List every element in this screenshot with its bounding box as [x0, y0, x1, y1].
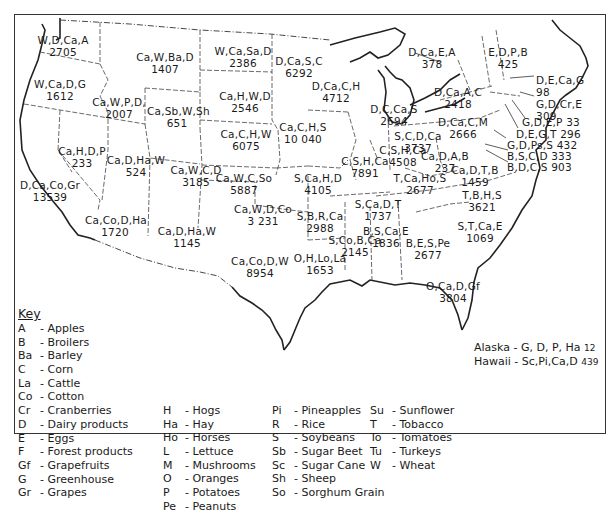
state-value: 1407 [135, 63, 195, 75]
key-label: - Apples [40, 322, 85, 335]
state-value: 1459 [445, 176, 505, 188]
key-label: - Pineapples [294, 404, 361, 417]
key-label: - Forest products [40, 445, 133, 458]
key-label: - Potatoes [185, 486, 240, 499]
state-value: 2694 [364, 115, 424, 127]
key-label: - Tomatoes [392, 431, 452, 444]
state-crops: W,D,Ca,A [33, 34, 93, 46]
state-crops: B,E,S,Pe [398, 237, 458, 249]
key-entry: M- Mushrooms [163, 459, 256, 473]
key-code: L [163, 445, 185, 459]
state-label-az: Ca,Co,D,Ha1720 [85, 214, 145, 238]
key-label: - Soybeans [294, 431, 355, 444]
key-label: - Mushrooms [185, 459, 256, 472]
key-label: - Wheat [392, 459, 435, 472]
state-label-sd: Ca,H,W,D2546 [215, 90, 275, 114]
state-label-me: E,D,P,B425 [478, 46, 538, 70]
key-label: - Hogs [185, 404, 220, 417]
key-code: D [18, 418, 40, 432]
key-column-3: Pi- PineapplesR- RiceS- SoybeansSb- Suga… [272, 404, 384, 500]
key-code: Ha [163, 418, 185, 432]
state-crops: D,Ca,C,M [433, 116, 493, 128]
state-label-pa: D,Ca,C,M2666 [433, 116, 493, 140]
state-crops: S,T,Ca,E [450, 220, 510, 232]
key-code: M [163, 459, 185, 473]
state-label-ia: Ca,C,H,S10 040 [273, 121, 333, 145]
state-crops: W,Ca,Sa,D [213, 45, 273, 57]
key-entry: Gr- Grapes [18, 486, 133, 500]
state-value: 1653 [290, 264, 350, 276]
state-value: 5887 [214, 184, 274, 196]
key-code: So [272, 486, 294, 500]
state-crops: Ca,D,T,B [445, 164, 505, 176]
state-value: 233 [52, 157, 112, 169]
state-label-va: Ca,D,T,B1459 [445, 164, 505, 188]
state-crops: S,Ca,D,T [348, 198, 408, 210]
key-code: E [18, 432, 40, 446]
key-entry: P- Potatoes [163, 486, 256, 500]
key-label: - Grapes [40, 486, 87, 499]
key-column-4: Su- SunflowerT- TobaccoTo- TomatoesTu- T… [370, 404, 454, 472]
key-entry: T- Tobacco [370, 418, 454, 432]
key-code: T [370, 418, 392, 432]
key-entry: Ha- Hay [163, 418, 256, 432]
key-code: R [272, 418, 294, 432]
state-label-wi: D,Ca,C,H4712 [306, 80, 366, 104]
key-code: Tu [370, 445, 392, 459]
state-label-wy: Ca,Sb,W,Sh651 [147, 105, 207, 129]
key-code: Gf [18, 459, 40, 473]
hawaii-label: Hawaii - Sc,Pi,Ca,D [474, 355, 578, 368]
state-label-nm: Ca,D,Ha,W1145 [157, 225, 217, 249]
state-crops: Ca,C,H,S [273, 121, 333, 133]
key-entry: So- Sorghum Grain [272, 486, 384, 500]
key-code: To [370, 431, 392, 445]
state-value: 4712 [306, 92, 366, 104]
state-label-ar: S,B,R,Ca2988 [290, 210, 350, 234]
key-entry: E- Eggs [18, 432, 133, 446]
key-code: F [18, 445, 40, 459]
state-label-mi: D,C,Ca,S2694 [364, 103, 424, 127]
state-value: 1612 [30, 90, 90, 102]
state-crops: E,D,P,B [478, 46, 538, 58]
alaska-value: 12 [584, 343, 595, 353]
key-code: A [18, 322, 40, 336]
key-entry: Gf- Grapefruits [18, 459, 133, 473]
state-label-mn: D,Ca,S,C6292 [269, 55, 329, 79]
state-value: 2677 [390, 184, 450, 196]
key-code: W [370, 459, 392, 473]
state-value: 6292 [269, 67, 329, 79]
alaska-label: Alaska - G, D, P, Ha [474, 341, 581, 354]
key-label: - Peanuts [185, 500, 236, 513]
state-crops: Ca,D,Ha,W [157, 225, 217, 237]
state-crops: Ca,Sb,W,Sh [147, 105, 207, 117]
state-label-or: W,Ca,D,G1612 [30, 78, 90, 102]
state-value: 6075 [216, 140, 276, 152]
key-entry: O- Oranges [163, 472, 256, 486]
key-code: O [163, 472, 185, 486]
state-value: 1069 [450, 232, 510, 244]
key-code: B [18, 336, 40, 350]
key-label: - Sunflower [392, 404, 454, 417]
state-label-ks: Ca,W,C,So5887 [214, 172, 274, 196]
key-title: Key [18, 306, 41, 321]
state-label-wa: W,D,Ca,A2705 [33, 34, 93, 58]
hawaii-value: 439 [581, 357, 598, 367]
state-label-vt: D,Ca,E,A378 [402, 46, 462, 70]
callout-ri: G,D,E,P 33 [522, 116, 580, 128]
key-label: - Cranberries [40, 404, 112, 417]
state-crops: D,C,Ca,S [364, 103, 424, 115]
key-entry: Co- Cotton [18, 390, 133, 404]
key-entry: Pe- Peanuts [163, 500, 256, 514]
key-code: Pe [163, 500, 185, 514]
key-code: P [163, 486, 185, 500]
callout-md: B,D,C,S 903 [507, 161, 572, 173]
key-code: Sc [272, 459, 294, 473]
state-value: 3 231 [233, 215, 293, 227]
state-value: 2546 [215, 102, 275, 114]
state-value: 1720 [85, 226, 145, 238]
state-label-sc: S,T,Ca,E1069 [450, 220, 510, 244]
state-crops: D,Ca,E,A [402, 46, 462, 58]
key-label: - Sugar Cane [294, 459, 365, 472]
hawaii-entry: Hawaii - Sc,Pi,Ca,D 439 [474, 355, 598, 368]
state-value: 2705 [33, 46, 93, 58]
